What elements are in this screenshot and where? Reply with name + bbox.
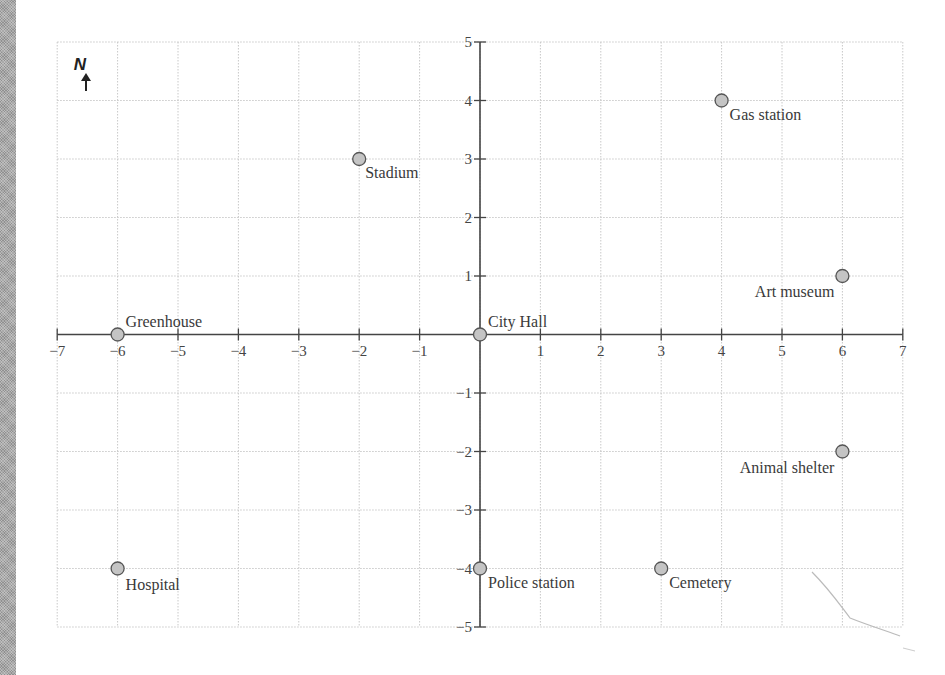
y-tick-label: 4	[465, 93, 473, 109]
y-tick-label: 2	[465, 210, 473, 226]
x-tick-label: −2	[351, 343, 367, 359]
coordinate-map: −7−6−5−4−3−2−1123456754321−1−2−3−4−5 Gre…	[0, 0, 945, 675]
location-marker-icon	[836, 270, 849, 283]
x-tick-label: 3	[657, 343, 665, 359]
location-cemetery: Cemetery	[655, 562, 732, 592]
location-gas-station: Gas station	[715, 94, 801, 123]
location-marker-icon	[715, 94, 728, 107]
location-label: Hospital	[126, 576, 181, 594]
location-marker-icon	[111, 328, 124, 341]
y-tick-label: −3	[456, 502, 472, 518]
location-label: Animal shelter	[740, 459, 835, 476]
location-label: Stadium	[365, 164, 419, 181]
north-arrow-icon	[81, 73, 91, 91]
pencil-mark	[812, 572, 900, 636]
y-tick-label: −2	[456, 444, 472, 460]
location-marker-icon	[655, 562, 668, 575]
pencil-mark-tail	[903, 648, 915, 651]
x-tick-label: −3	[291, 343, 307, 359]
x-tick-label: 1	[537, 343, 545, 359]
location-label: Greenhouse	[126, 313, 202, 330]
location-marker-icon	[474, 328, 487, 341]
location-hospital: Hospital	[111, 562, 180, 594]
x-tick-label: −1	[412, 343, 428, 359]
x-tick-label: 2	[597, 343, 605, 359]
y-tick-label: 5	[465, 34, 473, 50]
location-stadium: Stadium	[353, 153, 419, 182]
location-animal-shelter: Animal shelter	[740, 445, 849, 476]
location-label: Art museum	[755, 283, 835, 300]
x-tick-label: −5	[170, 343, 186, 359]
location-label: Police station	[488, 574, 575, 591]
y-tick-label: −4	[456, 561, 472, 577]
y-tick-label: −5	[456, 619, 472, 635]
location-marker-icon	[111, 562, 124, 575]
north-compass: N	[74, 55, 91, 91]
x-tick-label: 4	[718, 343, 726, 359]
y-tick-label: 3	[465, 151, 473, 167]
location-label: City Hall	[488, 313, 548, 331]
location-art-museum: Art museum	[755, 270, 849, 301]
location-greenhouse: Greenhouse	[111, 313, 202, 342]
location-marker-icon	[353, 153, 366, 166]
north-label: N	[74, 55, 87, 74]
location-marker-icon	[474, 562, 487, 575]
location-label: Gas station	[730, 106, 802, 123]
x-tick-label: −7	[49, 343, 65, 359]
location-police-station: Police station	[474, 562, 575, 591]
x-tick-label: 6	[839, 343, 847, 359]
location-label: Cemetery	[669, 574, 731, 592]
y-tick-label: −1	[456, 385, 472, 401]
x-tick-label: −4	[230, 343, 246, 359]
x-tick-label: −6	[110, 343, 126, 359]
x-tick-label: 7	[899, 343, 907, 359]
y-tick-label: 1	[465, 268, 473, 284]
x-tick-label: 5	[778, 343, 786, 359]
location-marker-icon	[836, 445, 849, 458]
location-city-hall: City Hall	[474, 313, 548, 342]
